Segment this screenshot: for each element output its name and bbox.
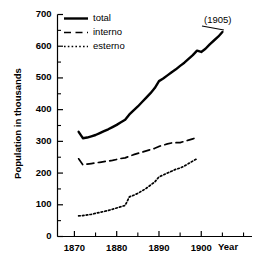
legend-swatches — [64, 19, 88, 47]
y-tick-label: 400 — [22, 103, 52, 114]
data-series — [79, 26, 224, 216]
y-tick-label: 600 — [22, 40, 52, 51]
y-tick-label: 200 — [22, 167, 52, 178]
legend-label-esterno: esterno — [93, 40, 125, 51]
y-tick-label: 0 — [22, 230, 52, 241]
y-tick-label: 500 — [22, 71, 52, 82]
series-line-interno — [79, 138, 197, 165]
y-tick-label: 100 — [22, 198, 52, 209]
x-tick-label: 1870 — [57, 242, 91, 253]
x-tick-label: 1890 — [142, 242, 176, 253]
legend-label-interno: interno — [93, 26, 122, 37]
legend-label-total: total — [93, 12, 111, 23]
x-tick-label: 1880 — [100, 242, 134, 253]
annotation-leader-line — [202, 26, 224, 30]
y-tick-label: 300 — [22, 135, 52, 146]
series-line-esterno — [79, 159, 197, 216]
axes — [58, 15, 253, 237]
x-tick-label: 1900 — [184, 242, 218, 253]
y-tick-label: 700 — [22, 8, 52, 19]
population-line-chart: Population in thousands Year (1905) tota… — [0, 0, 258, 266]
